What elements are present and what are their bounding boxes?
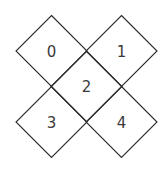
cell-2: 2 [51,51,122,122]
cell-3: 3 [16,87,87,158]
cell-0: 0 [16,16,87,87]
cell-3-label: 3 [47,114,57,132]
cell-4: 4 [86,87,157,158]
cell-4-label: 4 [117,114,127,132]
cell-2-label: 2 [82,78,92,96]
cell-1-label: 1 [117,43,127,61]
cell-0-label: 0 [47,43,57,61]
cell-1: 1 [86,16,157,87]
diamond-grid-diagram: 0 1 2 3 4 [0,0,165,173]
